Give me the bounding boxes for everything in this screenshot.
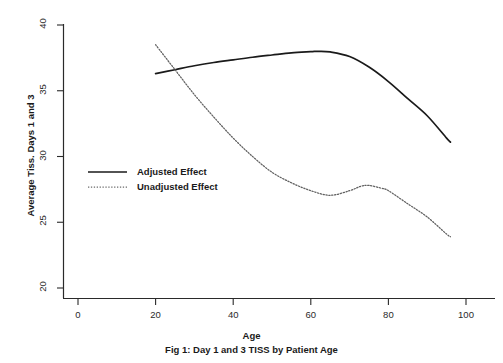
series-line-adjusted-effect <box>156 51 451 142</box>
legend-label-adjusted-effect: Adjusted Effect <box>137 166 207 177</box>
y-tick-label: 35 <box>37 79 48 99</box>
y-tick-label: 40 <box>37 14 48 34</box>
x-tick-label: 100 <box>451 309 481 320</box>
series-line-unadjusted-effect <box>156 45 451 237</box>
y-axis-ticks <box>57 25 64 288</box>
x-tick-label: 20 <box>141 309 171 320</box>
y-axis-title: Average Tiss. Days 1 and 3 <box>25 65 36 245</box>
y-tick-label: 30 <box>37 145 48 165</box>
figure-caption: Fig 1: Day 1 and 3 TISS by Patient Age <box>0 344 503 355</box>
x-tick-label: 60 <box>296 309 326 320</box>
x-axis-ticks <box>78 299 466 306</box>
x-tick-label: 80 <box>373 309 403 320</box>
y-tick-label: 20 <box>37 277 48 297</box>
y-tick-label: 25 <box>37 211 48 231</box>
x-tick-label: 40 <box>218 309 248 320</box>
x-axis-title: Age <box>0 330 503 341</box>
figure-container: 2025303540020406080100 Average Tiss. Day… <box>0 0 503 363</box>
x-tick-label: 0 <box>63 309 93 320</box>
legend-label-unadjusted-effect: Unadjusted Effect <box>137 181 218 192</box>
